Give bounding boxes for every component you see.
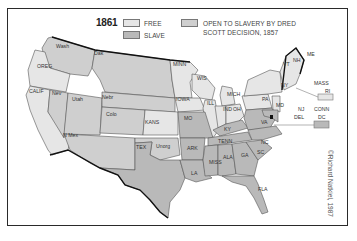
label-md: MD: [276, 102, 284, 108]
label-mich: MICH: [227, 91, 241, 97]
legend-label-slave: SLAVE: [144, 32, 165, 39]
region-new-york: [244, 70, 282, 96]
region-utah: [64, 93, 102, 135]
copyright-credit: ©Richard Natkiel, 1987: [327, 150, 334, 217]
legend-label-free: FREE: [144, 20, 162, 27]
label-utah: Utah: [72, 96, 83, 102]
label-va: VA: [261, 119, 268, 125]
label-nj: NJ: [298, 106, 305, 112]
label-calif: CALIF: [29, 88, 44, 94]
label-ky: KY: [224, 126, 231, 132]
label-oh: OH: [233, 106, 241, 112]
label-ala: ALA: [223, 154, 233, 160]
label-ill: ILL: [207, 100, 214, 106]
label-iowa: IOWA: [176, 96, 190, 102]
legend-swatch-open: [181, 19, 198, 27]
map-year-title: 1861: [96, 17, 117, 28]
label-minn: MINN: [173, 61, 187, 67]
legend-label-open-line1: OPEN TO SLAVERY BY DRED: [203, 20, 296, 27]
label-pa: PA: [262, 96, 269, 102]
legend-swatch-slave: [123, 31, 140, 39]
legend-swatch-free: [123, 19, 140, 27]
label-tex: TEX: [136, 144, 147, 150]
label-nc: NC: [261, 139, 269, 145]
label-oreg: OREG: [37, 63, 52, 69]
label-conn: CONN: [314, 106, 330, 112]
label-ga: GA: [241, 152, 249, 158]
label-wash: Wash: [56, 43, 69, 49]
label-miss: MISS: [209, 159, 222, 165]
region-dakota: [92, 50, 175, 98]
label-fla: FLA: [258, 186, 268, 192]
us-map-1861: Wash OREG CALIF Nev Utah Dak Nebr Colo N…: [0, 0, 357, 241]
label-nebr: Nebr: [102, 94, 114, 100]
label-mo: MO: [184, 115, 192, 121]
label-me: ME: [307, 51, 315, 57]
label-del: DEL: [294, 114, 304, 120]
label-ind: IND: [223, 106, 232, 112]
label-tenn: TENN: [218, 138, 232, 144]
label-ny: NY: [281, 82, 289, 88]
region-new-mexico: [64, 134, 135, 170]
label-nmex: N Mex: [63, 132, 78, 138]
label-colo: Colo: [106, 111, 117, 117]
label-dc: DC: [318, 114, 326, 120]
label-kans: KANS: [145, 119, 160, 125]
legend-label-open-line2: SCOTT DECISION, 1857: [203, 29, 278, 36]
label-ark: ARK: [187, 145, 198, 151]
label-ri: RI: [325, 88, 330, 94]
label-mass: MASS: [314, 80, 329, 86]
label-nev: Nev: [52, 90, 62, 96]
label-la: LA: [191, 170, 198, 176]
label-nh: NH: [293, 57, 301, 63]
label-vt: VT: [283, 61, 290, 67]
label-unorg: Unorg: [156, 143, 170, 149]
label-dak: Dak: [94, 50, 104, 56]
label-wis: WIS: [197, 75, 207, 81]
label-sc: SC: [257, 149, 264, 155]
region-florida: [222, 176, 268, 214]
